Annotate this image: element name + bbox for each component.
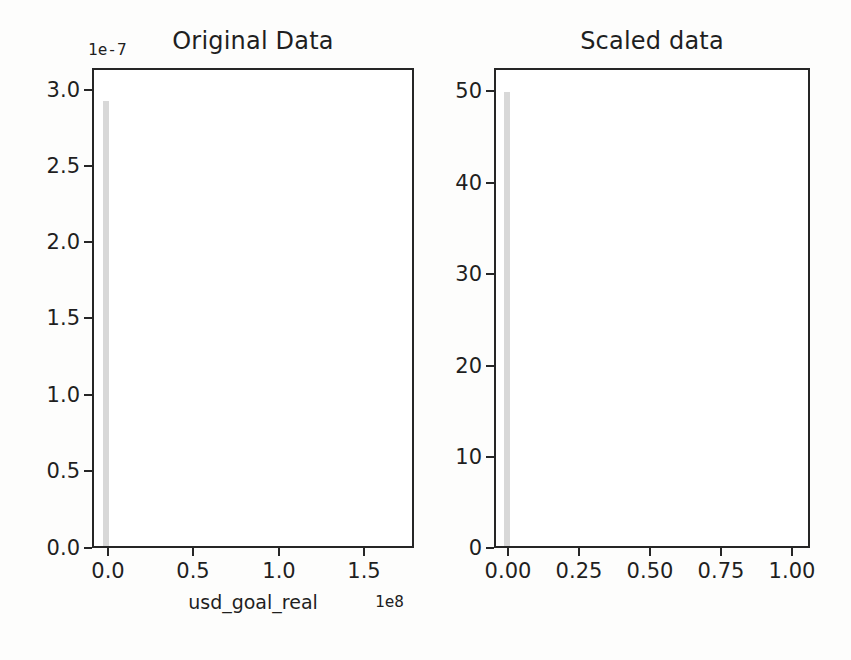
subplot-original-data: Original Data 1e-7 0.0 0.5 1.0 1.5 2.0 2… bbox=[0, 0, 430, 660]
ytick-mark bbox=[486, 547, 494, 549]
plot-title-scaled-data: Scaled data bbox=[494, 27, 810, 55]
ytick-label: 3.0 bbox=[0, 78, 80, 102]
subplot-scaled-data: Scaled data 0 10 20 30 40 50 0.00 0.25 0… bbox=[430, 0, 851, 660]
xtick-label: 0.0 bbox=[91, 559, 124, 583]
ytick-mark bbox=[84, 470, 92, 472]
xtick-mark bbox=[192, 548, 194, 556]
xtick-label: 0.5 bbox=[176, 559, 209, 583]
ytick-label: 2.0 bbox=[0, 230, 80, 254]
ytick-label: 1.5 bbox=[0, 306, 80, 330]
ytick-label: 2.5 bbox=[0, 154, 80, 178]
histogram-bar bbox=[504, 92, 510, 546]
ytick-mark bbox=[84, 89, 92, 91]
xtick-mark bbox=[578, 548, 580, 556]
xtick-label: 1.00 bbox=[769, 559, 816, 583]
ytick-mark bbox=[84, 547, 92, 549]
ytick-label: 0.5 bbox=[0, 459, 80, 483]
xtick-mark bbox=[507, 548, 509, 556]
ytick-label: 40 bbox=[430, 171, 482, 195]
ytick-mark bbox=[84, 165, 92, 167]
ytick-label: 1.0 bbox=[0, 383, 80, 407]
ytick-mark bbox=[486, 456, 494, 458]
ytick-label: 0.0 bbox=[0, 536, 80, 560]
xtick-label: 0.00 bbox=[485, 559, 532, 583]
matplotlib-figure: Original Data 1e-7 0.0 0.5 1.0 1.5 2.0 2… bbox=[0, 0, 851, 660]
axes-scaled-data bbox=[494, 68, 810, 548]
xtick-mark bbox=[278, 548, 280, 556]
ytick-mark bbox=[486, 182, 494, 184]
x-axis-label-original-data: usd_goal_real bbox=[92, 591, 414, 613]
xtick-mark bbox=[791, 548, 793, 556]
xtick-label: 0.50 bbox=[627, 559, 674, 583]
xtick-mark bbox=[720, 548, 722, 556]
xtick-label: 1.5 bbox=[347, 559, 380, 583]
ytick-label: 50 bbox=[430, 79, 482, 103]
xtick-mark bbox=[649, 548, 651, 556]
axes-original-data bbox=[92, 68, 414, 548]
ytick-mark bbox=[486, 365, 494, 367]
xtick-mark bbox=[363, 548, 365, 556]
xtick-label: 0.25 bbox=[556, 559, 603, 583]
y-offset-text-original-data: 1e-7 bbox=[88, 40, 127, 59]
ytick-label: 20 bbox=[430, 354, 482, 378]
ytick-label: 30 bbox=[430, 262, 482, 286]
ytick-mark bbox=[84, 317, 92, 319]
ytick-mark bbox=[486, 273, 494, 275]
xtick-label: 1.0 bbox=[262, 559, 295, 583]
ytick-label: 10 bbox=[430, 445, 482, 469]
plot-title-original-data: Original Data bbox=[92, 27, 414, 55]
ytick-mark bbox=[84, 241, 92, 243]
xtick-label: 0.75 bbox=[698, 559, 745, 583]
ytick-mark bbox=[486, 90, 494, 92]
histogram-bar bbox=[103, 101, 109, 546]
xtick-mark bbox=[107, 548, 109, 556]
ytick-label: 0 bbox=[430, 536, 482, 560]
ytick-mark bbox=[84, 394, 92, 396]
x-offset-text-original-data: 1e8 bbox=[375, 592, 404, 611]
